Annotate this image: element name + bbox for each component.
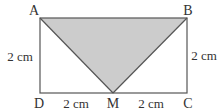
measure-ad: 2 cm xyxy=(7,49,33,64)
vertex-label-c: C xyxy=(183,96,192,111)
shaded-triangle-abm xyxy=(40,18,187,93)
measure-dm: 2 cm xyxy=(63,96,89,111)
vertex-label-b: B xyxy=(183,3,192,18)
vertex-label-m: M xyxy=(107,96,120,111)
geometry-diagram: A B C D M 2 cm 2 cm 2 cm 2 cm xyxy=(0,0,221,111)
measure-mc: 2 cm xyxy=(138,96,164,111)
measure-bc: 2 cm xyxy=(191,48,217,63)
vertex-label-d: D xyxy=(34,96,44,111)
vertex-label-a: A xyxy=(29,3,40,18)
